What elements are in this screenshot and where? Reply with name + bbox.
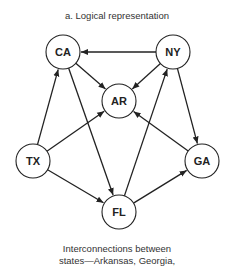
edge-ny-to-ga <box>177 68 197 143</box>
node-label: AR <box>111 95 127 107</box>
caption-line-1: Interconnections between <box>0 243 234 255</box>
edge-ca-to-ar <box>76 63 106 89</box>
edges-group <box>38 52 198 203</box>
node-fl: FL <box>102 195 136 229</box>
node-ar: AR <box>102 84 136 118</box>
node-label: GA <box>194 155 211 167</box>
edge-ny-to-ar <box>132 63 160 89</box>
node-ny: NY <box>156 35 190 69</box>
nodes-group: CANYARTXGAFL <box>16 35 219 229</box>
node-label: TX <box>26 155 41 167</box>
node-ga: GA <box>185 144 219 178</box>
node-label: CA <box>55 46 71 58</box>
edge-fl-to-ga <box>134 170 187 203</box>
node-label: NY <box>165 46 181 58</box>
figure-caption: Interconnections between states—Arkansas… <box>0 243 234 267</box>
node-label: FL <box>112 206 126 218</box>
node-tx: TX <box>16 144 50 178</box>
edge-tx-to-fl <box>48 170 104 203</box>
edge-tx-to-ca <box>38 69 59 144</box>
network-graph: CANYARTXGAFL <box>0 0 234 278</box>
caption-line-2: states—Arkansas, Georgia, <box>0 255 234 267</box>
node-ca: CA <box>46 35 80 69</box>
